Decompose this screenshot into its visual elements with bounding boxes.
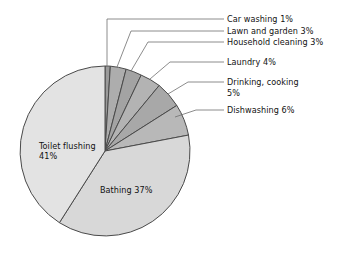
pie-chart: Car washing 1% Lawn and garden 3% Househ… bbox=[0, 0, 341, 257]
slice-label-laundry: Laundry 4% bbox=[227, 57, 276, 67]
leader-line-household-cleaning bbox=[131, 42, 224, 71]
slice-label-toilet-flushing-line2: 41% bbox=[39, 151, 57, 161]
slice-label-drinking-cooking-line1: Drinking, cooking bbox=[227, 77, 299, 87]
slice-label-car-washing: Car washing 1% bbox=[227, 14, 293, 24]
slice-label-bathing: Bathing 37% bbox=[100, 185, 152, 195]
slice-label-toilet-flushing-line1: Toilet flushing bbox=[39, 141, 96, 151]
slice-label-dishwashing: Dishwashing 6% bbox=[227, 105, 294, 115]
slice-label-drinking-cooking-line2: 5% bbox=[227, 88, 240, 98]
slice-label-household-cleaning: Household cleaning 3% bbox=[227, 37, 323, 47]
leader-line-laundry bbox=[150, 62, 224, 79]
leader-line-car-washing bbox=[107, 19, 224, 67]
slice-label-lawn-and-garden: Lawn and garden 3% bbox=[227, 26, 313, 36]
leader-line-drinking-cooking bbox=[168, 82, 224, 94]
